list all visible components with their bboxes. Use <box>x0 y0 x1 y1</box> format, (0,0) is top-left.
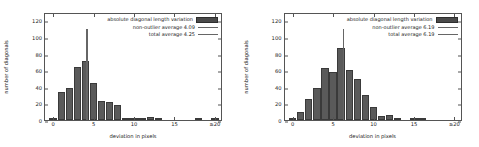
legend-right: absolute diagonal length variation non-o… <box>347 17 458 38</box>
x-tick-mark <box>53 14 54 17</box>
y-tick-label: 80 <box>275 53 282 58</box>
y-tick-label: 60 <box>35 70 42 75</box>
y-tick-mark <box>458 72 461 73</box>
x-tick-mark <box>215 117 216 120</box>
x-tick-label: 10 <box>370 122 377 127</box>
y-tick-mark <box>45 122 48 123</box>
histogram-panel-left: number of diagonals deviation in pixels … <box>0 0 240 147</box>
plot-frame-left: 020406080100120 051015≥20 absolute diago… <box>44 13 222 121</box>
histogram-bar <box>329 72 336 120</box>
legend-line-nonoutlier-icon <box>198 27 218 28</box>
y-tick-mark <box>458 22 461 23</box>
y-tick-mark <box>45 105 48 106</box>
y-tick-label: 80 <box>35 53 42 58</box>
x-tick-mark <box>134 117 135 120</box>
y-tick-label: 20 <box>35 103 42 108</box>
x-tick-label: ≥20 <box>449 122 460 127</box>
legend-swatch-bars-icon <box>196 17 218 23</box>
y-tick-label: 60 <box>275 70 282 75</box>
histogram-bar <box>313 88 320 120</box>
y-tick-mark <box>458 88 461 89</box>
legend-entry-bars: absolute diagonal length variation <box>347 17 458 23</box>
x-tick-mark <box>414 117 415 120</box>
x-tick-mark <box>53 117 54 120</box>
y-tick-label: 120 <box>272 20 282 25</box>
y-tick-mark <box>45 88 48 89</box>
x-tick-mark <box>333 117 334 120</box>
y-tick-label: 40 <box>275 86 282 91</box>
x-tick-label: 10 <box>131 122 138 127</box>
legend-line-total-icon <box>438 34 458 35</box>
x-tick-label: 0 <box>291 122 294 127</box>
legend-line-nonoutlier-icon <box>438 27 458 28</box>
average-marker-line <box>87 29 88 120</box>
y-tick-label: 20 <box>275 103 282 108</box>
x-tick-mark <box>293 14 294 17</box>
x-tick-label: 5 <box>331 122 334 127</box>
legend-swatch-bars-icon <box>436 17 458 23</box>
histogram-panel-right: number of diagonals deviation in pixels … <box>240 0 479 147</box>
histogram-bar <box>418 118 425 120</box>
y-axis-label-left: number of diagonals <box>3 40 9 94</box>
histogram-bar <box>321 68 328 120</box>
histogram-bar <box>90 83 97 120</box>
x-tick-label: 5 <box>92 122 95 127</box>
y-tick-label: 40 <box>35 86 42 91</box>
average-marker-line <box>343 29 344 120</box>
y-tick-mark <box>285 122 288 123</box>
histogram-bar <box>346 70 353 120</box>
legend-label-bars: absolute diagonal length variation <box>347 17 433 23</box>
histogram-bar <box>378 116 385 120</box>
y-tick-label: 100 <box>32 36 42 41</box>
y-tick-mark <box>45 22 48 23</box>
histogram-bar <box>362 95 369 120</box>
legend-entry-nonoutlier: non-outlier average 6.19 <box>372 25 457 31</box>
legend-label-nonoutlier: non-outlier average 4.09 <box>133 25 195 31</box>
y-tick-mark <box>45 55 48 56</box>
histogram-bar <box>354 79 361 120</box>
y-tick-mark <box>285 38 288 39</box>
y-tick-mark <box>458 38 461 39</box>
plot-frame-right: 020406080100120 051015≥20 absolute diago… <box>284 13 462 121</box>
legend-entry-nonoutlier: non-outlier average 4.09 <box>133 25 218 31</box>
histogram-bar <box>297 112 304 120</box>
y-tick-mark <box>45 72 48 73</box>
y-tick-mark <box>218 22 221 23</box>
y-tick-mark <box>285 72 288 73</box>
y-tick-label: 100 <box>272 36 282 41</box>
y-axis-label-right: number of diagonals <box>243 40 249 94</box>
y-tick-mark <box>218 88 221 89</box>
x-axis-label-right: deviation in pixels <box>349 133 396 139</box>
y-tick-mark <box>218 72 221 73</box>
y-tick-mark <box>285 22 288 23</box>
histogram-bar <box>147 117 154 120</box>
histogram-bar <box>195 118 202 120</box>
histogram-bar <box>74 67 81 120</box>
histogram-bar <box>394 118 401 120</box>
histogram-bar <box>386 115 393 120</box>
y-tick-label: 0 <box>39 119 42 124</box>
legend-entry-total: total average 6.19 <box>388 32 457 38</box>
histogram-bar <box>66 88 73 120</box>
histogram-bar <box>155 118 162 120</box>
histogram-bar <box>305 99 312 120</box>
x-tick-mark <box>293 117 294 120</box>
y-tick-label: 0 <box>278 119 281 124</box>
x-tick-label: 15 <box>411 122 418 127</box>
legend-entry-bars: absolute diagonal length variation <box>107 17 218 23</box>
y-tick-mark <box>285 88 288 89</box>
x-axis-label-left: deviation in pixels <box>109 133 156 139</box>
y-tick-mark <box>285 55 288 56</box>
histogram-bar <box>106 102 113 120</box>
y-tick-mark <box>218 105 221 106</box>
histogram-bar <box>337 48 344 120</box>
y-tick-mark <box>45 38 48 39</box>
x-tick-mark <box>454 117 455 120</box>
histogram-bar <box>114 105 121 120</box>
legend-label-total: total average 6.19 <box>388 32 434 38</box>
legend-label-bars: absolute diagonal length variation <box>107 17 193 23</box>
x-tick-label: 15 <box>171 122 178 127</box>
histogram-bar <box>98 101 105 120</box>
histogram-bar <box>58 92 65 120</box>
x-tick-mark <box>374 117 375 120</box>
